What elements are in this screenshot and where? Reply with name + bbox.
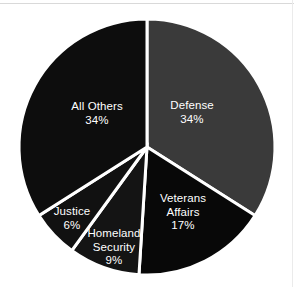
- pie-chart-svg: [0, 0, 294, 287]
- pie-slice-group: [19, 19, 275, 275]
- pie-chart-figure: Defense34%VeteransAffairs17%HomelandSecu…: [0, 0, 294, 287]
